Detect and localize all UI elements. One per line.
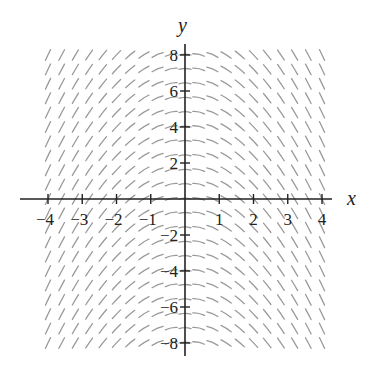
slope-segment xyxy=(86,280,93,290)
slope-segment xyxy=(165,68,177,70)
slope-segment xyxy=(45,266,50,277)
slope-segment xyxy=(278,180,285,190)
slope-segment xyxy=(45,50,50,61)
slope-segment xyxy=(139,95,149,101)
slope-segment xyxy=(72,251,78,261)
slope-segment xyxy=(165,111,177,113)
slope-segment xyxy=(319,338,324,349)
x-tick-label: −2 xyxy=(104,210,122,229)
slope-segment xyxy=(193,183,205,185)
slope-segment xyxy=(72,122,78,132)
slope-segment xyxy=(86,93,93,103)
slope-segment xyxy=(193,270,205,272)
slope-segment xyxy=(165,212,177,214)
slope-segment xyxy=(193,313,205,315)
slope-segment xyxy=(72,338,78,348)
slope-segment xyxy=(278,295,285,305)
slope-segment xyxy=(126,224,135,232)
slope-segment xyxy=(319,78,324,89)
slope-segment xyxy=(72,295,78,305)
slope-segment xyxy=(235,339,244,347)
slope-segment xyxy=(292,223,298,233)
slope-segment xyxy=(221,181,231,187)
slope-segment xyxy=(306,323,312,334)
slope-segment xyxy=(193,68,205,70)
slope-segment xyxy=(278,309,285,319)
slope-segment xyxy=(235,94,244,102)
slope-segment xyxy=(45,122,50,133)
slope-segment xyxy=(263,79,270,88)
slope-segment xyxy=(292,165,298,175)
slope-segment xyxy=(45,309,50,320)
slope-segment xyxy=(165,327,177,329)
slope-segment xyxy=(165,284,177,286)
slope-segment xyxy=(86,324,93,334)
slope-segment xyxy=(249,310,257,319)
slope-segment xyxy=(126,94,135,102)
slope-segment xyxy=(207,168,218,173)
slope-segment xyxy=(86,79,93,89)
slope-segment xyxy=(221,66,231,72)
slope-segment xyxy=(45,64,50,75)
slope-segment xyxy=(45,78,50,89)
slope-segment xyxy=(139,325,149,331)
slope-segment xyxy=(207,67,218,72)
slope-segment xyxy=(59,251,65,262)
slope-segment xyxy=(319,280,324,291)
slope-segment xyxy=(59,223,65,234)
slope-segment xyxy=(207,254,218,259)
slope-segment xyxy=(278,79,285,89)
slope-segment xyxy=(126,325,135,333)
slope-segment xyxy=(235,152,244,160)
slope-segment xyxy=(165,140,177,142)
slope-segment xyxy=(278,108,285,118)
slope-segment xyxy=(72,179,78,189)
slope-segment xyxy=(249,94,257,103)
x-tick-label: 2 xyxy=(249,210,258,229)
slope-segment xyxy=(112,281,120,290)
x-tick-label: 4 xyxy=(318,210,327,229)
slope-segment xyxy=(263,338,270,347)
y-tick-label: 2 xyxy=(170,154,179,173)
slope-segment xyxy=(249,339,257,348)
slope-segment xyxy=(86,165,93,175)
slope-segment xyxy=(207,240,218,245)
slope-segment xyxy=(306,338,312,349)
slope-segment xyxy=(221,282,231,288)
slope-segment xyxy=(319,251,324,262)
slope-segment xyxy=(319,323,324,334)
slope-segment xyxy=(263,281,270,290)
slope-segment xyxy=(86,237,93,247)
slope-segment xyxy=(86,266,93,276)
slope-segment xyxy=(249,238,257,247)
slope-segment xyxy=(86,252,93,262)
slope-segment xyxy=(263,94,270,103)
slope-segment xyxy=(221,95,231,101)
slope-segment xyxy=(139,153,149,159)
slope-segment xyxy=(292,280,298,290)
slope-segment xyxy=(292,179,298,189)
slope-segment xyxy=(139,181,149,187)
slope-segment xyxy=(72,165,78,175)
x-tick-label: −3 xyxy=(70,210,88,229)
slope-segment xyxy=(221,52,231,58)
x-tick-label: −4 xyxy=(36,210,55,229)
slope-segment xyxy=(59,295,65,306)
slope-segment xyxy=(99,50,106,59)
slope-segment xyxy=(292,122,298,132)
slope-segment xyxy=(306,136,312,147)
slope-segment xyxy=(319,179,324,190)
slope-segment xyxy=(86,180,93,190)
slope-segment xyxy=(165,183,177,185)
slope-segment xyxy=(278,93,285,103)
slope-segment xyxy=(72,50,78,60)
slope-segment xyxy=(207,312,218,317)
slope-segment xyxy=(86,122,93,132)
slope-segment xyxy=(221,325,231,331)
slope-segment xyxy=(207,110,218,115)
slope-segment xyxy=(263,310,270,319)
slope-segment xyxy=(72,93,78,103)
slope-segment xyxy=(319,150,324,161)
slope-segment xyxy=(59,64,65,75)
slope-segment xyxy=(221,311,231,317)
